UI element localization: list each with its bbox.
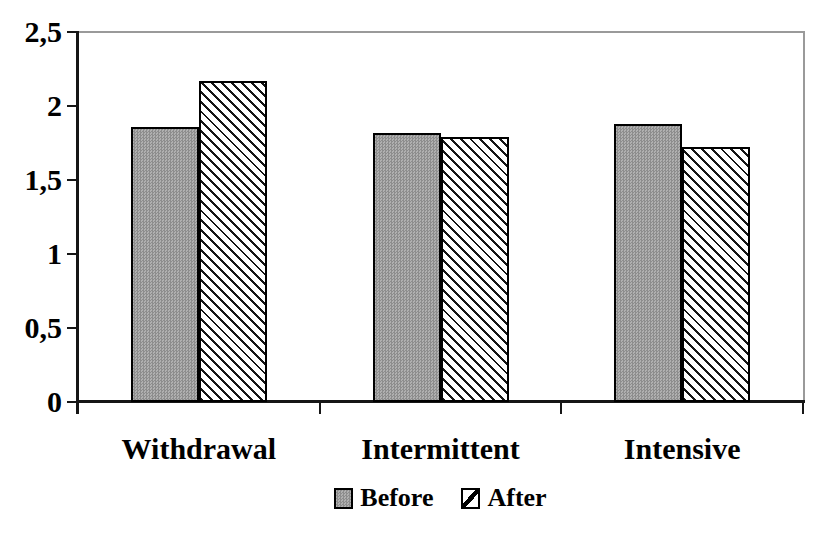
legend-swatch-after-hatch-square-icon (461, 488, 480, 509)
legend: BeforeAfter (78, 481, 803, 515)
x-tick-mark (319, 402, 321, 414)
bar-after-withdrawal (199, 81, 267, 402)
category-label-withdrawal: Withdrawal (69, 431, 329, 467)
bar-before-withdrawal (131, 127, 199, 402)
legend-item-before: Before (334, 483, 433, 513)
bar-chart: 00,511,522,5WithdrawalIntermittentIntens… (0, 0, 818, 533)
x-tick-mark (802, 402, 804, 414)
y-tick-label: 1 (0, 237, 62, 271)
y-tick-mark (67, 179, 78, 181)
category-label-intensive: Intensive (552, 431, 812, 467)
chart-stage: 00,511,522,5WithdrawalIntermittentIntens… (0, 0, 818, 533)
bar-before-intermittent (373, 133, 441, 402)
legend-label-after: After (487, 483, 546, 513)
y-tick-label: 2,5 (0, 15, 62, 49)
y-tick-label: 0,5 (0, 311, 62, 345)
plot-border-top (78, 31, 805, 33)
y-tick-mark (67, 327, 78, 329)
category-label-intermittent: Intermittent (311, 431, 571, 467)
legend-swatch-before-gray-square-icon (334, 488, 353, 509)
y-tick-label: 2 (0, 89, 62, 123)
y-tick-mark (67, 31, 78, 33)
x-tick-mark (560, 402, 562, 414)
plot-border-right (803, 31, 805, 402)
y-tick-mark (67, 105, 78, 107)
legend-label-before: Before (360, 483, 433, 513)
y-tick-mark (67, 253, 78, 255)
y-tick-label: 0 (0, 385, 62, 419)
legend-item-after: After (461, 483, 546, 513)
bar-after-intensive (682, 147, 750, 402)
y-axis-line (76, 31, 79, 414)
bar-before-intensive (614, 124, 682, 402)
x-tick-mark (77, 402, 79, 414)
y-tick-label: 1,5 (0, 163, 62, 197)
bar-after-intermittent (441, 137, 509, 402)
